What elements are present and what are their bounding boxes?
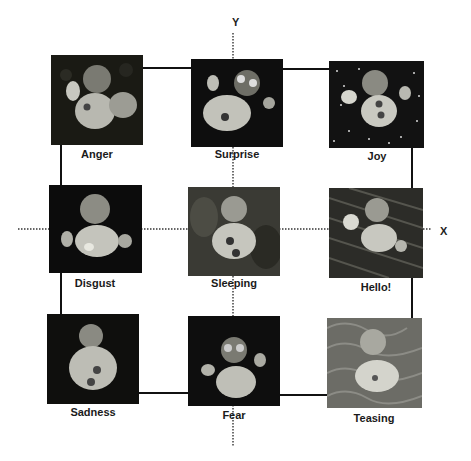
emotion-label-hello: Hello!	[326, 281, 426, 293]
emotion-image-fear	[188, 316, 280, 406]
character-figure-icon	[49, 185, 142, 273]
emotion-image-anger	[51, 55, 143, 145]
character-figure-icon	[188, 316, 280, 406]
emotion-image-teasing	[327, 318, 422, 408]
character-figure-icon	[51, 55, 143, 145]
emotion-image-sleeping	[188, 187, 280, 276]
emotion-label-surprise: Surprise	[187, 148, 287, 160]
character-figure-icon	[47, 314, 139, 404]
emotion-label-sleeping: Sleeping	[184, 277, 284, 289]
emotion-image-joy	[329, 61, 424, 148]
emotion-label-anger: Anger	[47, 148, 147, 160]
emotion-label-teasing: Teasing	[324, 412, 424, 424]
emotion-label-fear: Fear	[184, 409, 284, 421]
character-figure-icon	[188, 187, 280, 276]
emotion-label-disgust: Disgust	[45, 277, 145, 289]
y-axis-label: Y	[232, 16, 239, 28]
emotion-image-sadness	[47, 314, 139, 404]
emotion-label-sadness: Sadness	[43, 406, 143, 418]
emotion-label-joy: Joy	[327, 150, 427, 162]
character-figure-icon	[191, 59, 283, 147]
x-axis-label: X	[440, 225, 447, 237]
character-figure-icon	[329, 188, 423, 278]
emotion-image-disgust	[49, 185, 142, 273]
emotion-image-hello	[329, 188, 423, 278]
emotion-image-surprise	[191, 59, 283, 147]
character-figure-icon	[327, 318, 422, 408]
character-figure-icon	[329, 61, 424, 148]
